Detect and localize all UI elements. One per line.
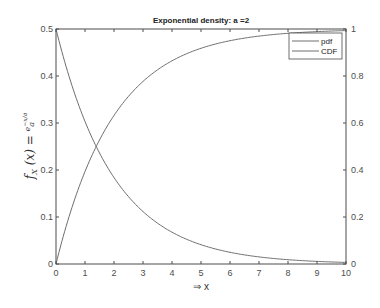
y-right-tick-label: 0.2	[351, 212, 364, 222]
plot-area	[56, 29, 346, 264]
y-right-tick-label: 1	[351, 24, 356, 34]
x-axis-label: ⇒ x	[193, 281, 209, 292]
axes-box	[56, 29, 346, 264]
y-left-tick-label: 0.4	[40, 71, 53, 81]
y-axis-label: fX (x) = e−x/aa	[21, 112, 39, 180]
x-tick-label: 2	[111, 268, 116, 278]
x-tick-label: 4	[169, 268, 174, 278]
x-tick-label: 3	[140, 268, 145, 278]
x-tick-label: 9	[314, 268, 319, 278]
chart-title: Exponential density: a =2	[153, 16, 250, 25]
y-right-tick-label: 0.6	[351, 118, 364, 128]
x-tick-label: 8	[285, 268, 290, 278]
legend-label-pdf: pdf	[321, 37, 333, 46]
x-tick-label: 7	[256, 268, 261, 278]
legend: pdfCDF	[289, 33, 342, 59]
chart: Exponential density: a =2 01234567891000…	[0, 0, 380, 308]
legend-label-cdf: CDF	[321, 47, 338, 56]
y-left-tick-label: 0.1	[40, 212, 53, 222]
y-right-tick-label: 0.4	[351, 165, 364, 175]
x-tick-label: 1	[82, 268, 87, 278]
x-tick-label: 6	[227, 268, 232, 278]
x-tick-label: 0	[53, 268, 58, 278]
x-tick-label: 5	[198, 268, 203, 278]
y-left-tick-label: 0.5	[40, 24, 53, 34]
y-right-tick-label: 0.8	[351, 71, 364, 81]
y-left-tick-label: 0.3	[40, 118, 53, 128]
y-left-tick-label: 0.2	[40, 165, 53, 175]
x-tick-label: 10	[341, 268, 351, 278]
svg-text:fX (x) = e−x/aa: fX (x) = e−x/aa	[21, 112, 39, 180]
y-right-tick-label: 0	[351, 259, 356, 269]
y-left-tick-label: 0	[48, 259, 53, 269]
